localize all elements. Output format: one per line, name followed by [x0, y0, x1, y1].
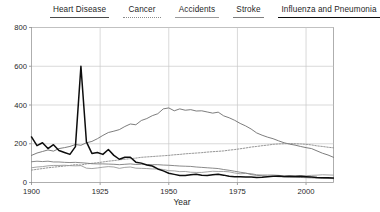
x-axis-title: Year [174, 197, 191, 207]
x-tick-label: 1975 [229, 187, 246, 196]
x-tick-label: 1925 [92, 187, 109, 196]
y-tick-label: 400 [14, 101, 27, 110]
x-tick-label: 1900 [23, 187, 40, 196]
x-tick-label: 1950 [160, 187, 177, 196]
y-tick-label: 600 [14, 62, 27, 71]
y-tick-label: 800 [14, 23, 27, 32]
x-tick-label: 2000 [298, 187, 315, 196]
y-axis-ticks: 0200400600800 [14, 23, 31, 187]
y-tick-label: 200 [14, 139, 27, 148]
x-axis-ticks: 19001925195019752000 [23, 183, 314, 196]
